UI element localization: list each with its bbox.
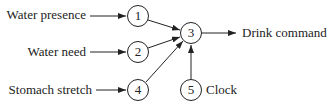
node-1-label: 1 [127,9,149,23]
clock-label: Clock [206,83,237,97]
node-5-label: 5 [180,83,202,97]
output-label-drink-command: Drink command [242,26,327,40]
input-label-water-need: Water need [28,45,87,59]
input-label-water-presence: Water presence [7,8,86,22]
node-3-label: 3 [180,26,202,40]
node-2-label: 2 [127,45,149,59]
node-4-label: 4 [127,83,149,97]
diagram: 1 2 3 4 5 Water presence Water need Stom… [0,0,331,108]
input-label-stomach-stretch: Stomach stretch [9,83,92,97]
edge-1-3 [148,20,180,30]
edge-2-3 [148,37,180,48]
